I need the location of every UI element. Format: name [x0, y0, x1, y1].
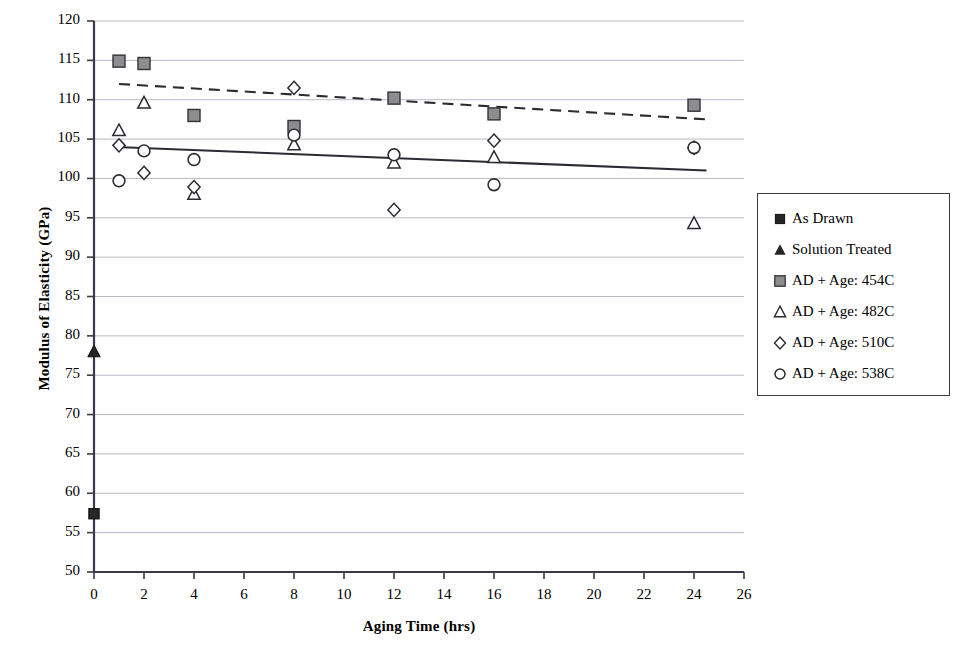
- legend-symbol: [772, 211, 792, 227]
- x-tick-label: 2: [124, 586, 164, 603]
- data-point-open-circle: [188, 154, 200, 166]
- y-tick-label: 115: [38, 50, 80, 67]
- data-point-open-triangle: [688, 217, 700, 229]
- x-tick-label: 16: [474, 586, 514, 603]
- x-tick-label: 0: [74, 586, 114, 603]
- legend-item-gray-square[interactable]: AD + Age: 454C: [772, 265, 949, 296]
- y-tick-label: 70: [38, 405, 80, 422]
- x-tick-label: 10: [324, 586, 364, 603]
- data-point-open-diamond: [488, 134, 500, 147]
- data-point-open-circle: [138, 145, 150, 157]
- x-tick-label: 24: [674, 586, 714, 603]
- y-tick-label: 80: [38, 326, 80, 343]
- legend-item-label: AD + Age: 482C: [792, 303, 894, 320]
- data-point-open-circle: [288, 129, 300, 141]
- y-tick-label: 120: [38, 11, 80, 28]
- legend-symbol: [772, 335, 792, 351]
- x-tick-label: 6: [224, 586, 264, 603]
- legend-symbol: [772, 242, 792, 258]
- legend-marker-filled-square: [772, 211, 788, 227]
- y-tick-label: 65: [38, 444, 80, 461]
- data-markers-group: [88, 55, 700, 519]
- x-tick-label: 4: [174, 586, 214, 603]
- legend-marker-filled-triangle: [772, 242, 788, 258]
- legend-marker-gray-square: [772, 273, 788, 289]
- legend-item-filled-square[interactable]: As Drawn: [772, 203, 949, 234]
- chart-legend: As DrawnSolution TreatedAD + Age: 454CAD…: [757, 193, 950, 396]
- x-axis-title: Aging Time (hrs): [94, 618, 744, 635]
- legend-item-open-circle[interactable]: AD + Age: 538C: [772, 358, 949, 389]
- lower-solid-trendline: [117, 147, 707, 171]
- y-tick-label: 105: [38, 129, 80, 146]
- x-tick-label: 14: [424, 586, 464, 603]
- data-point-gray-square: [388, 92, 400, 104]
- legend-marker-open-circle: [772, 366, 788, 382]
- legend-item-label: Solution Treated: [792, 241, 892, 258]
- y-tick-label: 50: [38, 562, 80, 579]
- y-tick-label: 110: [38, 90, 80, 107]
- data-point-open-triangle: [488, 151, 500, 163]
- y-tick-label: 60: [38, 483, 80, 500]
- legend-item-label: AD + Age: 510C: [792, 334, 894, 351]
- data-point-gray-square: [488, 108, 500, 120]
- data-point-open-diamond: [188, 180, 200, 193]
- x-tick-label: 26: [724, 586, 764, 603]
- data-point-gray-square: [188, 109, 200, 121]
- legend-marker-open-diamond: [772, 335, 788, 351]
- legend-item-label: AD + Age: 454C: [792, 272, 894, 289]
- legend-marker-open-triangle: [772, 304, 788, 320]
- y-tick-label: 100: [38, 168, 80, 185]
- x-tick-label: 12: [374, 586, 414, 603]
- legend-item-label: As Drawn: [792, 210, 853, 227]
- x-tick-label: 18: [524, 586, 564, 603]
- legend-item-label: AD + Age: 538C: [792, 365, 894, 382]
- data-point-filled-triangle: [88, 345, 100, 357]
- gridlines-group: [94, 21, 744, 572]
- data-point-open-diamond: [388, 203, 400, 216]
- data-point-open-circle: [688, 142, 700, 154]
- x-tick-label: 20: [574, 586, 614, 603]
- chart-container: Modulus of Elasticity (GPa) Aging Time (…: [0, 0, 961, 660]
- x-tick-label: 8: [274, 586, 314, 603]
- data-point-open-triangle: [113, 124, 125, 136]
- data-point-gray-square: [688, 99, 700, 111]
- upper-dashed-trendline: [119, 84, 707, 119]
- data-point-open-circle: [388, 149, 400, 161]
- data-point-filled-square: [89, 509, 99, 519]
- data-point-open-triangle: [138, 96, 150, 108]
- legend-item-open-diamond[interactable]: AD + Age: 510C: [772, 327, 949, 358]
- legend-item-filled-triangle[interactable]: Solution Treated: [772, 234, 949, 265]
- data-point-gray-square: [113, 55, 125, 67]
- legend-symbol: [772, 366, 792, 382]
- data-point-gray-square: [138, 58, 150, 70]
- y-tick-label: 90: [38, 247, 80, 264]
- y-tick-label: 95: [38, 208, 80, 225]
- trendlines-group: [117, 84, 707, 171]
- data-point-open-circle: [488, 179, 500, 191]
- legend-item-open-triangle[interactable]: AD + Age: 482C: [772, 296, 949, 327]
- data-point-open-diamond: [138, 166, 150, 179]
- y-tick-label: 85: [38, 287, 80, 304]
- data-point-open-diamond: [288, 81, 300, 94]
- data-point-open-circle: [113, 175, 125, 187]
- x-tick-label: 22: [624, 586, 664, 603]
- legend-symbol: [772, 273, 792, 289]
- y-tick-label: 75: [38, 365, 80, 382]
- data-point-open-diamond: [113, 139, 125, 152]
- y-tick-label: 55: [38, 523, 80, 540]
- legend-symbol: [772, 304, 792, 320]
